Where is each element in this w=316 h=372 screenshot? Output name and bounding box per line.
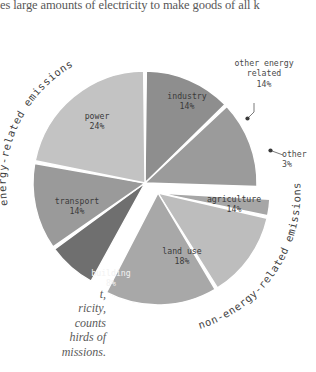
slice-label-land-use: land use 18% [145,246,219,267]
caption-bottom-line-3: hirds of [0,330,106,344]
caption-bottom-line-0: t, [0,287,106,301]
callout-other-energy-value: 14% [257,79,272,89]
caption-bottom-text: t, ricity, counts hirds of missions. [0,287,106,359]
callout-other: other 3% [282,149,316,170]
slice-label-agriculture: agriculture 14% [193,194,275,215]
slice-label-transport-name: transport [55,196,99,206]
caption-bottom-line-2: counts [0,316,106,330]
callout-other-energy-related: other energy related 14% [218,58,310,89]
slice-label-transport: transport 14% [38,196,116,217]
slice-label-power-name: power [85,111,110,121]
slice-label-land-use-value: 18% [145,256,219,266]
chart-page: es large amounts of electricity to make … [0,0,316,372]
slice-label-industry: industry 14% [152,91,222,112]
caption-bottom-line-4: missions. [0,345,106,359]
slice-label-agriculture-value: 14% [193,204,275,214]
slice-label-agriculture-name: agriculture [207,194,261,204]
slice-label-land-use-name: land use [162,246,201,256]
slice-label-transport-value: 14% [38,206,116,216]
slice-label-industry-value: 14% [152,101,222,111]
callout-other-energy-line2: related [247,68,282,78]
callout-leader-other [268,148,283,155]
callout-other-energy-line1: other energy [234,58,293,68]
callout-other-value: 3% [282,159,292,169]
slice-label-industry-name: industry [167,91,206,101]
callout-leader-other-energy [245,103,254,121]
caption-bottom-line-1: ricity, [0,301,106,315]
slice-label-building: building 8% [76,268,146,289]
slice-label-power-value: 24% [62,121,132,131]
slice-label-power: power 24% [62,111,132,132]
slice-label-building-name: building [91,268,130,278]
callout-other-line1: other [282,149,307,159]
